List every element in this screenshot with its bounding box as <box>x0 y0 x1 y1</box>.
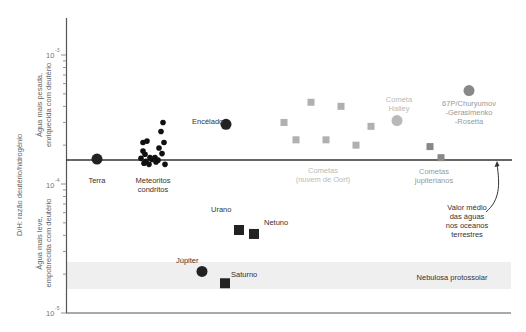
marker-meteoritos-condritos <box>152 155 158 161</box>
lower-region-label-2: empobrecida com deutério <box>44 199 53 288</box>
marker-saturno <box>220 278 230 288</box>
marker-cometas-jupiterianos <box>427 143 434 150</box>
label-halley-2: Halley <box>389 104 410 113</box>
upper-region-label-1: Água mais pesada, <box>35 73 44 137</box>
label-67p-1: 67P/Churyumov <box>442 99 496 108</box>
label-jupiter-comets-1: Cometas <box>419 167 449 176</box>
label-67p-3: -Rosetta <box>455 117 484 126</box>
label-halley-1: Cometa <box>386 95 413 104</box>
label-urano: Urano <box>211 205 231 214</box>
y-tick-label-1e-3: 10 -3 <box>46 47 60 60</box>
marker-meteoritos-condritos <box>158 129 164 135</box>
label-ocean-1: Valor médio <box>447 203 486 212</box>
marker-cometas-nuvem-de-oort- <box>338 103 345 110</box>
marker-cometas-nuvem-de-oort- <box>281 119 288 126</box>
marker-cometas-nuvem-de-oort- <box>308 99 315 106</box>
label-ocean-4: terrestres <box>451 230 483 239</box>
marker-67p-churyumov-gerasimenko-rosetta <box>464 85 475 96</box>
label-oort-2: (nuvem de Oort) <box>296 175 351 184</box>
marker-cometa-halley <box>392 115 403 126</box>
marker-meteoritos-condritos <box>160 120 166 126</box>
ocean-average-arrow <box>486 164 499 212</box>
marker-cometas-nuvem-de-oort- <box>323 136 330 143</box>
y-axis-title: D/H: razão deutério/hidrogênio <box>15 134 24 236</box>
upper-region-label-2: enriquecida com deutério <box>44 63 53 147</box>
marker-meteoritos-condritos <box>140 148 146 154</box>
arrow-head-icon <box>495 161 500 167</box>
marker-meteoritos-condritos <box>161 140 167 146</box>
marker-urano <box>234 225 244 235</box>
label-netuno: Netuno <box>264 218 288 227</box>
y-tick-label-1e-4: 10 -4 <box>46 177 60 190</box>
label-oort-1: Cometas <box>308 166 338 175</box>
label-jupiter: Júpiter <box>176 256 199 265</box>
label-terra: Terra <box>88 176 106 185</box>
marker-meteoritos-condritos <box>140 140 146 146</box>
y-axis-ticks <box>61 55 67 313</box>
svg-text:-3: -3 <box>55 47 60 53</box>
label-meteoritos-1: Meteoritos <box>135 176 170 185</box>
marker-cometas-jupiterianos <box>438 154 445 161</box>
svg-text:-4: -4 <box>55 177 60 183</box>
lower-region-label-1: Água mais leve, <box>35 216 44 269</box>
label-67p-2: -Gerasimenko <box>445 108 492 117</box>
marker-meteoritos-condritos <box>159 151 165 157</box>
marker-terra <box>92 154 103 165</box>
label-saturno: Saturno <box>231 270 257 279</box>
marker-meteoritos-condritos <box>138 156 144 162</box>
label-ocean-3: nos oceanos <box>446 221 489 230</box>
label-encelado: Encélado <box>192 117 223 126</box>
label-ocean-2: das águas <box>450 212 485 221</box>
marker-netuno <box>249 229 259 239</box>
svg-text:-5: -5 <box>55 305 60 311</box>
marker-cometas-nuvem-de-oort- <box>353 142 360 149</box>
label-jupiter-comets-2: jupiterianos <box>414 176 454 185</box>
marker-meteoritos-condritos <box>162 162 168 168</box>
marker-cometas-nuvem-de-oort- <box>293 136 300 143</box>
y-tick-label-1e-5: 10 -5 <box>46 305 60 318</box>
svg-text:10: 10 <box>46 51 54 60</box>
marker-j-piter <box>197 266 208 277</box>
marker-cometas-nuvem-de-oort- <box>368 123 375 130</box>
svg-text:10: 10 <box>46 181 54 190</box>
label-nebula: Nebulosa protossolar <box>417 273 488 282</box>
marker-meteoritos-condritos <box>147 155 153 161</box>
label-meteoritos-2: condritos <box>138 185 169 194</box>
dh-ratio-chart: 10 -3 10 -4 10 -5 D/H: razão deutério/hi… <box>0 0 526 332</box>
marker-meteoritos-condritos <box>146 162 152 168</box>
svg-text:10: 10 <box>46 309 54 318</box>
marker-meteoritos-condritos <box>156 145 162 151</box>
